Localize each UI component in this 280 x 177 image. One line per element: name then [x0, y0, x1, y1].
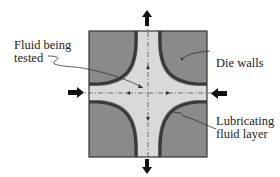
label-lubricating-fluid-layer: Lubricating fluid layer — [216, 115, 274, 141]
label-fluid-being-tested: Fluid being tested — [14, 39, 71, 65]
label-die-walls: Die walls — [216, 57, 264, 70]
arrow-bottom-icon — [142, 159, 152, 174]
diagram-canvas — [0, 0, 280, 177]
arrow-top-icon — [142, 10, 152, 26]
leader-dot — [181, 58, 184, 61]
arrow-right-icon — [211, 88, 227, 99]
arrow-left-icon — [68, 87, 84, 98]
